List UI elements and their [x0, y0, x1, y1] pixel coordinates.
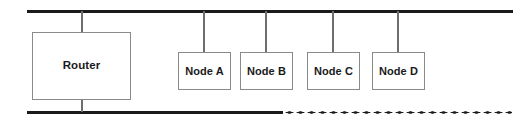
- node-a-box: Node A: [178, 52, 231, 90]
- top-bus-line: [27, 10, 513, 13]
- router-label: Router: [63, 60, 101, 72]
- bottom-bus-dotted-continuation: [284, 111, 512, 114]
- bottom-bus-line: [27, 111, 283, 114]
- node-c-box: Node C: [307, 52, 360, 90]
- router-box: Router: [32, 32, 131, 100]
- node-a-label: Node A: [185, 66, 224, 77]
- node-b-drop-line: [265, 11, 267, 53]
- network-diagram: Router Node A Node B Node C Node D: [0, 0, 532, 130]
- node-d-label: Node D: [379, 66, 418, 77]
- router-top-drop-line: [81, 11, 83, 33]
- node-b-box: Node B: [240, 52, 293, 90]
- node-b-label: Node B: [247, 66, 286, 77]
- node-d-box: Node D: [372, 52, 425, 90]
- node-d-drop-line: [397, 11, 399, 53]
- node-c-label: Node C: [314, 66, 353, 77]
- node-a-drop-line: [203, 11, 205, 53]
- router-bottom-drop-line: [81, 99, 83, 112]
- node-c-drop-line: [332, 11, 334, 53]
